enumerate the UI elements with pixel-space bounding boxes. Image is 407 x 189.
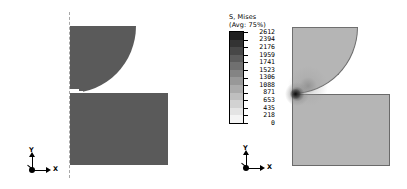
contact-gap-left (70, 89, 79, 93)
legend-swatch (230, 93, 243, 101)
legend-swatch (230, 47, 243, 55)
legend-tick (244, 85, 248, 86)
legend-value: 871 (263, 89, 275, 96)
axis-arrow-x-right (260, 165, 265, 171)
legend-tick (244, 62, 248, 63)
legend-swatch (230, 70, 243, 78)
axis-line-x-left (32, 170, 47, 171)
model-right[interactable] (280, 0, 407, 189)
legend-tick (244, 100, 248, 101)
legend-value: 2612 (259, 29, 275, 36)
stress-legend[interactable]: S, Mises (Avg: 75%) 26122394217619591741… (229, 13, 275, 124)
legend-value: 1741 (259, 59, 275, 66)
legend-value: 653 (263, 97, 275, 104)
legend-value: 435 (263, 105, 275, 112)
legend-tick (244, 55, 248, 56)
legend-title: S, Mises (229, 13, 275, 21)
axis-triad-right: Y X (236, 146, 278, 176)
legend-color-bar[interactable] (229, 31, 244, 124)
axis-line-x-right (246, 168, 261, 169)
legend-tick (244, 47, 248, 48)
legend-swatch (230, 115, 243, 123)
legend-swatch (230, 55, 243, 63)
legend-swatch (230, 100, 243, 108)
legend-tick (244, 115, 248, 116)
base-block-right[interactable] (292, 94, 390, 166)
legend-swatch (230, 40, 243, 48)
legend-swatch (230, 77, 243, 85)
legend-tick-marks (244, 31, 248, 124)
abaqus-viewport-canvas: Y X S, Mises (Avg: 75%) 2612239421761959… (0, 0, 407, 189)
legend-tick (244, 78, 248, 79)
indenter-body-right[interactable] (292, 27, 358, 94)
legend-swatch (230, 62, 243, 70)
legend-value: 1523 (259, 67, 275, 74)
legend-tick (244, 40, 248, 41)
legend-tick (244, 93, 248, 94)
viewport-stress-contour[interactable]: Y X (280, 0, 407, 189)
contact-gap-left-tip (79, 91, 83, 93)
base-block-left[interactable] (70, 93, 168, 165)
legend-tick (244, 123, 248, 124)
axis-label-x-right: X (267, 164, 272, 171)
axis-label-x-left: X (53, 166, 58, 173)
legend-swatch (230, 85, 243, 93)
legend-value: 1088 (259, 82, 275, 89)
legend-value: 1306 (259, 74, 275, 81)
viewport-undeformed[interactable]: Y X (0, 0, 204, 189)
legend-value: 218 (263, 112, 275, 119)
legend-body: 2612239421761959174115231306108887165343… (229, 31, 275, 124)
legend-value: 0 (271, 120, 275, 127)
legend-value: 2176 (259, 44, 275, 51)
legend-tick (244, 108, 248, 109)
legend-value-labels: 2612239421761959174115231306108887165343… (249, 31, 275, 124)
axis-arrow-x-left (46, 167, 51, 173)
legend-tick (244, 32, 248, 33)
legend-tick (244, 70, 248, 71)
legend-swatch (230, 108, 243, 116)
legend-swatch (230, 32, 243, 40)
indenter-body-left[interactable] (70, 26, 136, 93)
axis-triad-left: Y X (22, 148, 64, 178)
legend-value: 1959 (259, 52, 275, 59)
legend-value: 2394 (259, 36, 275, 43)
